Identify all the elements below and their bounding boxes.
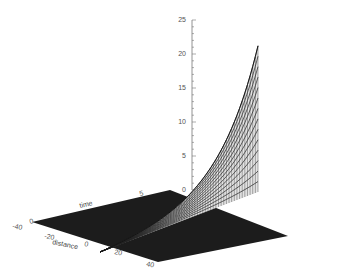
distance-tick-20: 20	[114, 248, 123, 256]
surface-plot: 0 5 10 15 20 25 time 0 5 distance -40 -2…	[0, 0, 339, 274]
time-axis-title: time	[79, 199, 94, 209]
z-tick-5: 5	[182, 152, 186, 159]
z-tick-15: 15	[178, 84, 186, 91]
distance-tick-0: 0	[84, 240, 89, 248]
z-tick-20: 20	[178, 50, 186, 57]
time-tick-5: 5	[139, 189, 144, 197]
distance-tick-40: 40	[146, 260, 155, 268]
z-tick-0: 0	[182, 186, 186, 193]
z-tick-10: 10	[178, 118, 186, 125]
z-tick-25: 25	[178, 16, 186, 23]
time-tick-0: 0	[29, 217, 34, 225]
distance-tick-m40: -40	[12, 222, 23, 231]
z-axis: 0 5 10 15 20 25	[178, 16, 196, 193]
distance-tick-m20: -20	[44, 232, 55, 241]
distance-axis-title: distance	[52, 238, 79, 250]
